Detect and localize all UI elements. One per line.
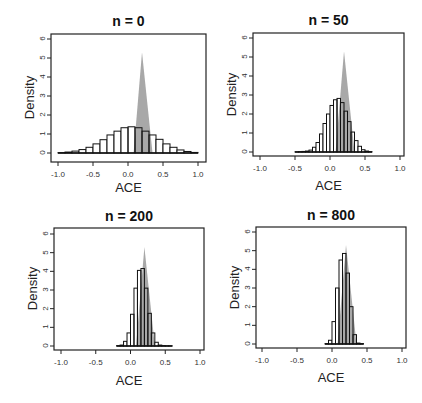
x-tick-label: 1.0 — [390, 356, 414, 365]
histogram-bar — [332, 322, 336, 344]
y-tick-label: 1 — [243, 321, 252, 329]
histogram-bar — [343, 253, 347, 344]
y-tick-label: 0 — [243, 340, 252, 348]
y-tick-label: 2 — [243, 302, 252, 310]
x-tick-label: -1.0 — [250, 356, 274, 365]
x-tick-label: -0.5 — [285, 356, 309, 365]
y-tick-label: 5 — [243, 246, 252, 254]
plot-area — [0, 0, 422, 403]
histogram-bar — [350, 307, 354, 344]
histogram-bar — [353, 335, 357, 344]
x-tick-label: 0.5 — [355, 356, 379, 365]
y-tick-label: 6 — [243, 228, 252, 236]
x-axis-label: ACE — [256, 370, 406, 385]
panel-title: n = 800 — [256, 207, 406, 223]
x-tick-label: 0.0 — [320, 356, 344, 365]
histogram-bar — [339, 260, 343, 344]
y-tick-label: 4 — [243, 265, 252, 273]
plot-frame — [256, 227, 406, 348]
histogram-bar — [346, 273, 350, 344]
y-axis-label: Density — [227, 257, 242, 317]
y-tick-label: 3 — [243, 284, 252, 292]
histogram-bar — [336, 288, 340, 344]
